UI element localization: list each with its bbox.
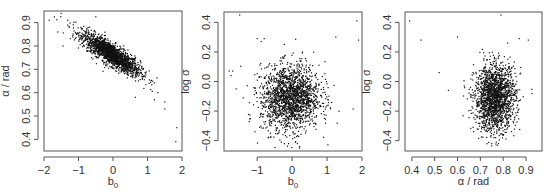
y-tick-label: 0.5 — [20, 108, 32, 123]
y-tick-label: 0.2 — [381, 44, 393, 59]
x-axis-label: b0 — [108, 175, 119, 190]
data-points — [409, 14, 533, 146]
data-points — [49, 13, 178, 143]
x-axis-label: b0 — [288, 175, 299, 190]
x-tick-label: 2 — [359, 164, 365, 176]
scatter-panel-alpha-vs-logsigma: 0.40.50.60.70.80.9α / rad−0.4−0.20.00.20… — [360, 12, 542, 187]
scatter-panel-b0-vs-alpha: −2−1012b00.40.50.60.70.80.9α / rad — [0, 11, 185, 190]
y-tick-label: −0.2 — [381, 100, 393, 122]
y-tick-label: 0.0 — [381, 74, 393, 89]
y-tick-label: 0.4 — [200, 15, 212, 30]
y-tick-label: 0.4 — [381, 15, 393, 30]
x-tick-label: −2 — [38, 164, 51, 176]
x-tick-label: −1 — [251, 164, 264, 176]
x-tick-label: 2 — [179, 164, 185, 176]
y-tick-label: 0.8 — [20, 38, 32, 53]
y-axis-label: log σ — [179, 69, 191, 94]
data-points — [229, 14, 360, 148]
figure-three-scatter-panels: −2−1012b00.40.50.60.70.80.9α / rad −1012… — [0, 0, 557, 194]
y-tick-label: 0.0 — [200, 74, 212, 89]
x-tick-label: −1 — [72, 164, 85, 176]
y-tick-label: −0.4 — [200, 130, 212, 152]
x-axis: 0.40.50.60.70.80.9α / rad — [404, 157, 533, 187]
y-tick-label: −0.4 — [381, 130, 393, 152]
x-tick-label: 0.5 — [427, 164, 442, 176]
y-axis-label: log σ — [360, 69, 372, 94]
x-tick-label: 0.4 — [404, 164, 419, 176]
x-tick-label: 1 — [324, 164, 330, 176]
y-axis: −0.4−0.20.00.20.4log σ — [360, 15, 399, 152]
x-tick-label: 0.8 — [496, 164, 511, 176]
y-axis: −0.4−0.20.00.20.4log σ — [179, 15, 218, 152]
x-axis: −2−1012b0 — [38, 157, 185, 190]
y-tick-label: 0.2 — [200, 44, 212, 59]
scatter-panel-b0-vs-logsigma: −1012b0−0.4−0.20.00.20.4log σ — [179, 12, 365, 190]
y-tick-label: 0.6 — [20, 85, 32, 100]
x-tick-label: 0.9 — [518, 164, 533, 176]
y-tick-label: 0.9 — [20, 15, 32, 30]
y-tick-label: 0.4 — [20, 132, 32, 147]
y-tick-label: 0.7 — [20, 62, 32, 77]
y-axis-label: α / rad — [0, 65, 11, 96]
y-tick-label: −0.2 — [200, 100, 212, 122]
x-tick-label: 1 — [144, 164, 150, 176]
y-axis: 0.40.50.60.70.80.9α / rad — [0, 15, 38, 147]
plot-frame — [44, 11, 182, 151]
plot-frame — [405, 12, 542, 151]
x-axis: −1012b0 — [251, 157, 365, 190]
x-axis-label: α / rad — [458, 175, 489, 187]
